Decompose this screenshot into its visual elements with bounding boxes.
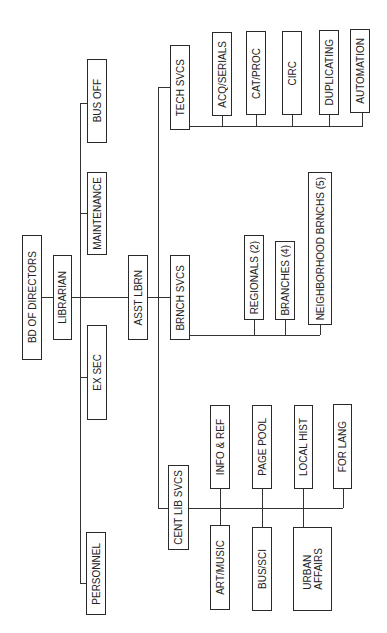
- box-label: EX SEC: [92, 354, 103, 391]
- org-chart: BD OF DIRECTORS LIBRARIAN BUS OFF MAINTE…: [0, 0, 387, 633]
- box-label: AUTOMATION: [355, 38, 366, 104]
- box-label: URBAN AFFAIRS: [302, 548, 324, 590]
- box-circ: CIRC: [282, 31, 302, 115]
- connector-acq: [222, 116, 223, 126]
- box-label: MAINTENANCE: [92, 177, 103, 250]
- box-cat-proc: CAT/PROC: [246, 31, 266, 115]
- box-branches: BRANCHES (4): [275, 241, 295, 320]
- connector-tech-bus: [190, 126, 363, 127]
- connector-auto: [362, 113, 363, 126]
- box-label: BD OF DIRECTORS: [27, 251, 38, 343]
- box-librarian: LIBRARIAN: [53, 255, 72, 340]
- box-label: PERSONNEL: [91, 543, 102, 605]
- box-label: REGIONALS (2): [249, 241, 260, 314]
- box-label: TECH SVCS: [175, 59, 186, 116]
- connector-asst-trunk: [148, 297, 170, 298]
- connector-for-lang: [343, 489, 344, 508]
- connector-neighborhood: [320, 325, 321, 335]
- connector-cat: [256, 115, 257, 126]
- box-asst-lbrn: ASST LBRN: [128, 255, 148, 340]
- box-page-pool: PAGE POOL: [252, 405, 272, 489]
- connector-dup: [329, 115, 330, 126]
- box-local-hist: LOCAL HIST: [294, 405, 313, 489]
- box-for-lang: FOR LANG: [333, 404, 352, 489]
- box-label: BUS/SCI: [257, 549, 268, 589]
- box-brnch-svcs: BRNCH SVCS: [170, 255, 190, 340]
- box-label: PAGE POOL: [257, 418, 268, 476]
- box-personnel: PERSONNEL: [86, 532, 106, 615]
- box-automation: AUTOMATION: [350, 29, 370, 113]
- connector-circ: [292, 115, 293, 126]
- box-label: NEIGHBORHOOD BRNCHS (5): [315, 177, 326, 320]
- connector-librarian-staff-trunk: [80, 103, 81, 584]
- box-label: FOR LANG: [337, 421, 348, 472]
- box-bus-sci: BUS/SCI: [252, 527, 272, 611]
- connector-bus-off: [80, 103, 87, 104]
- box-label: BRNCH SVCS: [175, 265, 186, 331]
- box-label: LOCAL HIST: [298, 418, 309, 476]
- connector-regionals: [254, 320, 255, 335]
- connector-tech-svcs: [158, 87, 170, 88]
- box-duplicating: DUPLICATING: [319, 30, 339, 115]
- connector-bd-librarian: [42, 297, 53, 298]
- box-label: CENT LIB SVCS: [173, 470, 184, 545]
- connector-ex-sec: [80, 377, 87, 378]
- connector-branches: [285, 320, 286, 335]
- connector-asst-services-trunk: [158, 87, 159, 509]
- box-tech-svcs: TECH SVCS: [170, 45, 190, 130]
- box-label: INFO & REF: [215, 419, 226, 475]
- box-info-ref: INFO & REF: [210, 405, 230, 489]
- box-label: ART/MUSIC: [215, 540, 226, 595]
- box-bus-off: BUS OFF: [87, 59, 107, 143]
- box-label: BRANCHES (4): [280, 245, 291, 316]
- box-label: CAT/PROC: [251, 48, 262, 99]
- connector-page-bus: [262, 489, 263, 527]
- connector-info-art: [220, 489, 221, 525]
- box-neighborhood-brnchs: NEIGHBORHOOD BRNCHS (5): [308, 172, 332, 325]
- box-acq-serials: ACQ/SERIALS: [212, 32, 232, 116]
- box-label: ASST LBRN: [133, 270, 144, 325]
- box-cent-lib-svcs: CENT LIB SVCS: [168, 465, 189, 550]
- box-label: CIRC: [287, 61, 298, 85]
- box-label: ACQ/SERIALS: [217, 41, 228, 108]
- connector-brnch-bus: [190, 335, 320, 336]
- connector-cent-lib-svcs: [158, 508, 168, 509]
- connector-cent-bus: [189, 508, 343, 509]
- box-urban-affairs: URBAN AFFAIRS: [293, 527, 332, 611]
- box-maintenance: MAINTENANCE: [87, 172, 107, 255]
- box-label: DUPLICATING: [324, 39, 335, 106]
- box-art-music: ART/MUSIC: [210, 525, 230, 610]
- connector-maintenance: [80, 213, 87, 214]
- connector-local-urban: [303, 489, 304, 527]
- box-bd-of-directors: BD OF DIRECTORS: [22, 235, 42, 360]
- box-regionals: REGIONALS (2): [244, 235, 264, 320]
- box-label: LIBRARIAN: [57, 271, 68, 324]
- box-label: BUS OFF: [92, 79, 103, 122]
- box-ex-sec: EX SEC: [87, 325, 107, 420]
